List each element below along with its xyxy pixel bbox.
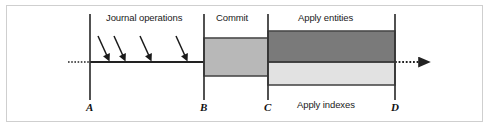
commit-band [204, 38, 268, 76]
journal-operation-arrow-1 [98, 36, 108, 58]
apply-entities-band [268, 31, 395, 62]
apply-indexes-band [268, 62, 395, 85]
tick-label-b: B [200, 101, 207, 113]
tick-label-d: D [391, 101, 399, 113]
journal-operation-arrow-3 [140, 36, 150, 58]
tick-label-a: A [86, 101, 93, 113]
journal-operation-arrow-2 [114, 36, 124, 58]
timeline-diagram-figure: Journal operations Commit Apply entities… [0, 0, 491, 130]
apply-entities-label: Apply entities [298, 12, 353, 23]
tick-label-c: C [264, 101, 271, 113]
apply-indexes-label: Apply indexes [297, 99, 355, 110]
journal-operations-label: Journal operations [106, 12, 182, 23]
commit-label: Commit [216, 12, 248, 23]
journal-operation-arrow-4 [176, 36, 186, 58]
